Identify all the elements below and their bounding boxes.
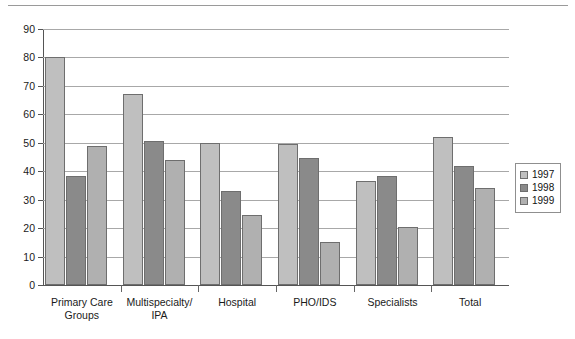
- x-axis-label-line: IPA: [121, 309, 199, 322]
- legend-label: 1997: [532, 170, 554, 180]
- x-tick-mark: [276, 285, 277, 292]
- bar-1999-primary-care-groups: [87, 146, 107, 285]
- bar-1997-multispecialty-ipa: [123, 94, 143, 285]
- bar-group: [278, 29, 340, 285]
- x-axis-labels: Primary CareGroupsMultispecialty/IPAHosp…: [43, 296, 509, 332]
- bar-group: [200, 29, 262, 285]
- legend-swatch-icon: [520, 184, 528, 192]
- x-axis-label-line: Primary Care: [43, 296, 121, 309]
- y-tick-label: 10: [23, 251, 35, 262]
- x-axis-label-line: Groups: [43, 309, 121, 322]
- x-axis-label-line: Total: [431, 296, 509, 309]
- bar-1998-hospital: [221, 191, 241, 285]
- x-axis-label-line: Hospital: [198, 296, 276, 309]
- x-axis-label-line: PHO/IDS: [276, 296, 354, 309]
- y-tick-mark: [38, 257, 43, 258]
- legend-label: 1998: [532, 183, 554, 193]
- bar-1998-pho-ids: [299, 158, 319, 285]
- y-tick-mark: [38, 285, 43, 286]
- legend-swatch-icon: [520, 171, 528, 179]
- bar-1997-total: [433, 137, 453, 285]
- bar-1997-hospital: [200, 143, 220, 285]
- chart-page: 0102030405060708090 Primary CareGroupsMu…: [0, 0, 575, 339]
- x-tick-mark: [198, 285, 199, 292]
- y-tick-label: 40: [23, 166, 35, 177]
- y-tick-label: 60: [23, 109, 35, 120]
- y-tick-mark: [38, 143, 43, 144]
- y-tick-label: 0: [29, 280, 35, 291]
- y-tick-label: 90: [23, 24, 35, 35]
- bar-group: [356, 29, 418, 285]
- x-axis-label-line: Multispecialty/: [121, 296, 199, 309]
- y-tick-label: 20: [23, 223, 35, 234]
- bar-1999-pho-ids: [320, 242, 340, 285]
- y-tick-mark: [38, 29, 43, 30]
- bar-group: [45, 29, 107, 285]
- bar-1998-specialists: [377, 176, 397, 286]
- y-tick-mark: [38, 114, 43, 115]
- y-tick-mark: [38, 171, 43, 172]
- bar-group: [433, 29, 495, 285]
- bar-1999-total: [475, 188, 495, 285]
- legend-item-1997: 1997: [520, 169, 554, 181]
- x-tick-mark: [354, 285, 355, 292]
- x-axis-label: Hospital: [198, 296, 276, 309]
- y-tick-label: 80: [23, 52, 35, 63]
- y-tick-label: 70: [23, 81, 35, 92]
- plot-area: 0102030405060708090: [43, 29, 509, 286]
- bar-1997-primary-care-groups: [45, 57, 65, 285]
- bar-chart: 0102030405060708090: [43, 29, 509, 286]
- bar-1999-multispecialty-ipa: [165, 160, 185, 285]
- y-tick-mark: [38, 200, 43, 201]
- legend-item-1998: 1998: [520, 182, 554, 194]
- legend-label: 1999: [532, 196, 554, 206]
- legend-swatch-icon: [520, 197, 528, 205]
- y-tick-label: 50: [23, 138, 35, 149]
- x-axis-label: Specialists: [354, 296, 432, 309]
- bar-1999-specialists: [398, 227, 418, 285]
- bar-1998-primary-care-groups: [66, 176, 86, 286]
- chart-legend: 199719981999: [515, 163, 561, 213]
- x-axis-label: Total: [431, 296, 509, 309]
- bar-1999-hospital: [242, 215, 262, 285]
- bar-1998-multispecialty-ipa: [144, 141, 164, 285]
- x-tick-mark: [121, 285, 122, 292]
- bar-1997-pho-ids: [278, 144, 298, 285]
- y-tick-mark: [38, 57, 43, 58]
- x-axis-label: PHO/IDS: [276, 296, 354, 309]
- x-tick-mark: [431, 285, 432, 292]
- x-axis-label: Primary CareGroups: [43, 296, 121, 322]
- y-tick-mark: [38, 228, 43, 229]
- bar-1998-total: [454, 166, 474, 285]
- legend-item-1999: 1999: [520, 195, 554, 207]
- x-axis-label-line: Specialists: [354, 296, 432, 309]
- bar-group: [123, 29, 185, 285]
- y-tick-mark: [38, 86, 43, 87]
- x-axis-label: Multispecialty/IPA: [121, 296, 199, 322]
- y-tick-label: 30: [23, 194, 35, 205]
- page-top-rule: [8, 5, 568, 6]
- bar-1997-specialists: [356, 181, 376, 285]
